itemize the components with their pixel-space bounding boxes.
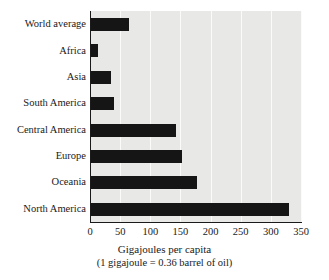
x-axis-title-block: Gigajoules per capita (1 gigajoule = 0.3…: [0, 242, 329, 270]
bar: [90, 124, 176, 137]
bar: [90, 44, 98, 57]
bar: [90, 150, 182, 163]
category-label: Asia: [0, 71, 86, 82]
y-axis-category-labels: World averageAfricaAsiaSouth AmericaCent…: [0, 11, 86, 222]
category-label: Oceania: [0, 176, 86, 187]
bar: [90, 97, 114, 110]
category-label: Central America: [0, 124, 86, 135]
x-tick-label: 300: [263, 226, 279, 238]
bar: [90, 203, 289, 216]
bar-row: [90, 196, 301, 222]
bar: [90, 176, 197, 189]
x-tick-label: 0: [87, 226, 92, 238]
x-tick-label: 250: [233, 226, 249, 238]
x-axis-line: [90, 222, 302, 223]
bar-row: [90, 143, 301, 169]
bar-chart: World averageAfricaAsiaSouth AmericaCent…: [0, 0, 329, 280]
bar: [90, 71, 111, 84]
x-axis-title: Gigajoules per capita: [0, 242, 329, 256]
x-tick-label: 100: [142, 226, 158, 238]
gridline: [301, 11, 302, 222]
x-axis-subtitle: (1 gigajoule = 0.36 barrel of oil): [0, 256, 329, 270]
category-label: North America: [0, 203, 86, 214]
y-axis-line: [90, 11, 91, 223]
bar-row: [90, 64, 301, 90]
x-tick-label: 350: [293, 226, 309, 238]
category-label: World average: [0, 18, 86, 29]
x-tick-label: 50: [115, 226, 126, 238]
x-tick-label: 200: [203, 226, 219, 238]
bar-row: [90, 169, 301, 195]
x-tick-label: 150: [173, 226, 189, 238]
bar-row: [90, 90, 301, 116]
bar-row: [90, 11, 301, 37]
category-label: Europe: [0, 150, 86, 161]
category-label: South America: [0, 97, 86, 108]
x-axis-tick-labels: 050100150200250300350: [0, 226, 329, 240]
plot-area: [90, 11, 301, 222]
bar-row: [90, 117, 301, 143]
bar-row: [90, 37, 301, 63]
category-label: Africa: [0, 45, 86, 56]
bar: [90, 18, 129, 31]
